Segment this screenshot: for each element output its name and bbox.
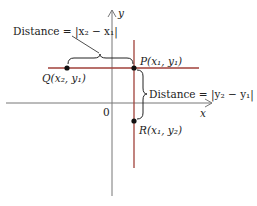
vertical-brace	[137, 70, 147, 119]
point-r	[131, 118, 136, 123]
point-r-label: R(x₁, y₂)	[139, 125, 182, 136]
x-axis-label: x	[200, 108, 206, 119]
point-q	[64, 65, 69, 70]
horizontal-brace	[68, 54, 133, 64]
point-p-label: P(x₁, y₁)	[140, 56, 182, 67]
vertical-distance-label: Distance = |y₂ − y₁|	[149, 89, 254, 100]
horizontal-distance-label: Distance = |x₂ − x₁|	[13, 26, 118, 37]
origin-label: 0	[103, 107, 110, 118]
horizontal-brace-leader	[72, 36, 99, 53]
point-q-label: Q(x₂, y₁)	[42, 73, 86, 84]
point-p	[131, 65, 136, 70]
distance-diagram: Distance = |x₂ − x₁| y P(x₁, y₁) Q(x₂, y…	[0, 0, 257, 206]
y-axis-label: y	[118, 8, 124, 19]
